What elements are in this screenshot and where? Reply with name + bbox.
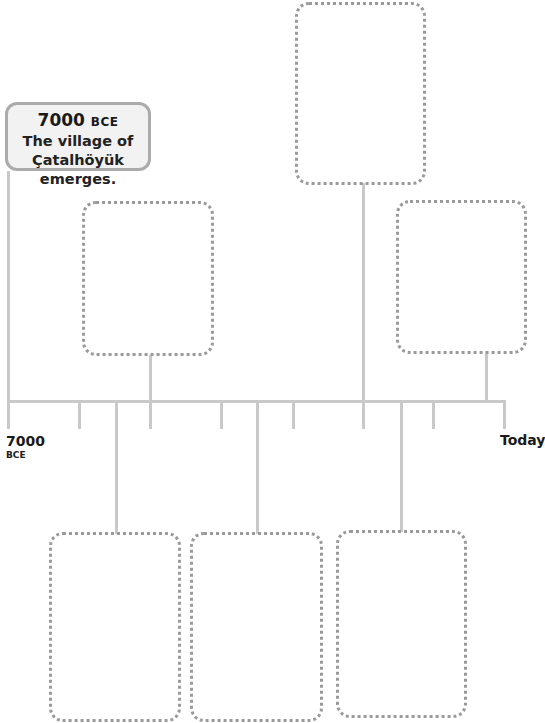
end-label: Today [500, 432, 545, 448]
connector-lower-left [115, 400, 118, 534]
connector-lower-right [400, 400, 403, 532]
empty-box-lower-middle[interactable] [190, 532, 323, 722]
tick [292, 400, 295, 429]
tick [78, 400, 81, 429]
start-connector [7, 171, 10, 429]
start-year: 7000 [6, 433, 45, 449]
connector-top-center [362, 183, 365, 402]
event-era: BCE [91, 115, 119, 129]
tick-end [503, 400, 506, 429]
empty-box-lower-right[interactable] [336, 530, 467, 718]
connector-upper-left [149, 355, 152, 402]
connector-upper-right [485, 353, 488, 402]
event-label-box: 7000 BCE The village of Çatalhöyük emerg… [5, 102, 151, 171]
event-text-line2: Çatalhöyük emerges. [8, 151, 148, 189]
empty-box-upper-left[interactable] [82, 201, 214, 356]
tick [149, 400, 152, 429]
tick [220, 400, 223, 429]
tick [432, 400, 435, 429]
event-year-number: 7000 [38, 110, 85, 130]
event-text-line1: The village of [8, 132, 148, 151]
event-year: 7000 BCE [8, 110, 148, 132]
connector-lower-middle [256, 400, 259, 534]
tick [362, 400, 365, 429]
start-era: BCE [6, 449, 45, 461]
empty-box-upper-right[interactable] [396, 200, 527, 354]
empty-box-lower-left[interactable] [49, 532, 181, 722]
start-label: 7000 BCE [6, 433, 45, 461]
empty-box-top-center[interactable] [295, 2, 426, 185]
